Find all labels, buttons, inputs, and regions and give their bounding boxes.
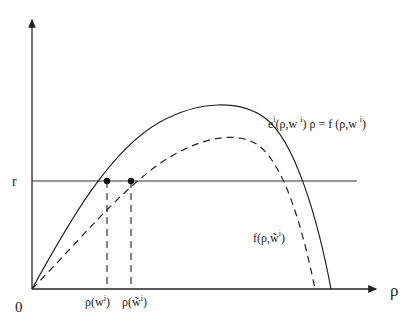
intersection-point-solid — [104, 178, 110, 184]
x-axis-label: ρ — [390, 281, 398, 300]
tick-label-rho-w: ρ(wi) — [85, 294, 110, 309]
intersection-point-dashed — [128, 178, 134, 184]
dashed-curve-label: f(ρ,w̃i) — [253, 229, 285, 245]
r-label: r — [12, 174, 17, 189]
solid-curve — [32, 105, 331, 289]
solid-curve-label: ei(ρ,w i) ρ = f (ρ,w i) — [268, 115, 366, 131]
origin-label: 0 — [15, 299, 23, 315]
dashed-curve — [32, 137, 315, 289]
diagram-canvas: r 0 ρ ei(ρ,w i) ρ = f (ρ,w i) f(ρ,w̃i) ρ… — [0, 0, 411, 327]
tick-label-rho-w-tilde: ρ(w̃i) — [122, 294, 147, 309]
